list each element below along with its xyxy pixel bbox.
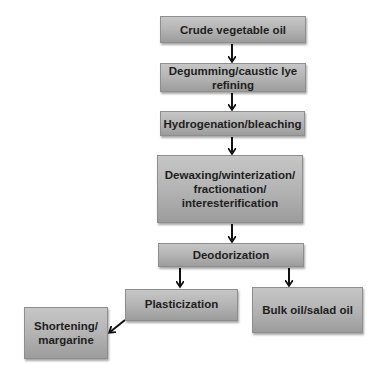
node-label: Bulk oil/salad oil — [262, 303, 353, 317]
node-label: Dewaxing/winterization/ fractionation/ i… — [165, 168, 295, 210]
node-label: Plasticization — [145, 297, 219, 311]
node-dewaxing-fractionation: Dewaxing/winterization/ fractionation/ i… — [157, 155, 303, 223]
node-shortening-margarine: Shortening/ margarine — [24, 307, 108, 359]
node-hydrogenation-bleaching: Hydrogenation/bleaching — [160, 111, 305, 136]
node-plasticization: Plasticization — [125, 289, 238, 321]
node-bulk-oil-salad-oil: Bulk oil/salad oil — [252, 287, 363, 333]
node-label: Shortening/ margarine — [34, 319, 98, 347]
node-degumming-refining: Degumming/caustic lye refining — [160, 63, 306, 92]
node-label: Degumming/caustic lye refining — [169, 64, 297, 92]
node-label: Hydrogenation/bleaching — [163, 117, 301, 131]
node-label: Crude vegetable oil — [180, 23, 286, 37]
arrow-plasticization-to-shortening — [110, 320, 125, 332]
node-deodorization: Deodorization — [158, 243, 304, 267]
node-crude-vegetable-oil: Crude vegetable oil — [160, 16, 306, 43]
node-label: Deodorization — [193, 248, 270, 262]
